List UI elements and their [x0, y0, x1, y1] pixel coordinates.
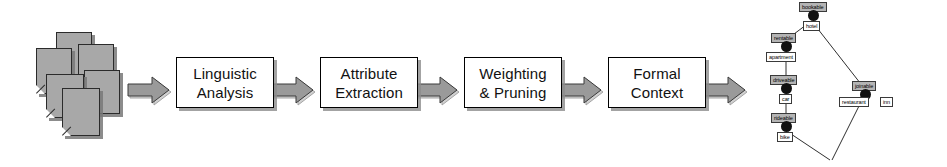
stage-box-attribute-extraction: Attribute Extraction [320, 57, 418, 108]
stage-label-line2: Context [631, 83, 683, 102]
stage-label-line1: Attribute [341, 64, 398, 83]
stage-label-line1: Linguistic [193, 64, 257, 83]
lattice-node-rentable [781, 41, 792, 52]
concept-lattice: bookable hotel rentable apartment drivea… [752, 0, 947, 167]
arrow-weighting-to-formal [560, 76, 600, 102]
lattice-node-top [808, 10, 819, 21]
arrow-attribute-to-weighting [416, 76, 456, 102]
stage-box-linguistic-analysis: Linguistic Analysis [176, 57, 274, 108]
lattice-object-label-bike: bike [777, 132, 793, 142]
lattice-object-label-inn: inn [880, 97, 893, 107]
lattice-object-label-car: car [779, 94, 792, 104]
lattice-object-label-apartment: apartment [766, 52, 796, 62]
stage-box-formal-context: Formal Context [608, 57, 706, 108]
stage-label-line2: Extraction [335, 83, 403, 102]
lattice-object-label-hotel: hotel [803, 21, 820, 31]
stage-box-weighting-pruning: Weighting & Pruning [464, 57, 562, 108]
stage-label-line1: Weighting [479, 64, 546, 83]
pipeline-diagram: Linguistic Analysis Attribute Extraction… [0, 0, 947, 167]
stage-label-line2: Analysis [197, 83, 254, 102]
lattice-node-driveable [781, 83, 792, 94]
lattice-object-label-restaurant: restaurant [839, 97, 869, 107]
arrow-linguistic-to-attribute [272, 76, 312, 102]
arrow-documents-to-linguistic [128, 76, 168, 102]
arrow-formal-to-lattice [704, 76, 744, 102]
document-stack-icon [34, 32, 130, 138]
stage-label-line2: & Pruning [480, 83, 547, 102]
document-page [62, 88, 100, 136]
lattice-node-rideable [781, 121, 792, 132]
stage-label-line1: Formal [633, 64, 680, 83]
